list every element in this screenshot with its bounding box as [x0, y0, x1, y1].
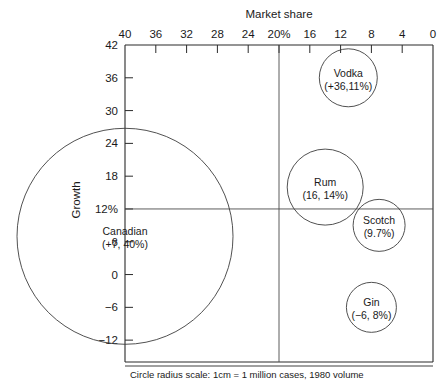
y-tick-label: −6: [105, 301, 118, 313]
y-tick-label: 42: [105, 39, 118, 51]
y-tick-label: −12: [98, 334, 118, 346]
y-tick-label: 30: [105, 105, 118, 117]
bubble-value-vodka: (+36,11%): [324, 80, 372, 92]
bubble-label-rum: Rum: [314, 176, 336, 188]
x-tick-label: 4: [399, 28, 406, 40]
bubble-chart: Market share 403632282420%1612840 423630…: [0, 0, 448, 386]
y-tick-label: 24: [105, 137, 118, 149]
y-tick-label: 0: [112, 269, 118, 281]
x-axis-title: Market share: [245, 8, 312, 20]
x-tick-label: 36: [149, 28, 162, 40]
y-tick-label: 12%: [95, 203, 118, 215]
scale-caption: Circle radius scale: 1cm = 1 million cas…: [130, 369, 364, 380]
bubble-value-rum: (16, 14%): [302, 189, 348, 201]
x-axis-tick-labels: 403632282420%1612840: [119, 28, 437, 40]
chart-canvas: Market share 403632282420%1612840 423630…: [0, 0, 448, 386]
x-tick-label: 0: [430, 28, 436, 40]
x-tick-label: 24: [242, 28, 255, 40]
bubble-gin[interactable]: Gin(−6, 8%): [346, 282, 396, 332]
bubble-vodka[interactable]: Vodka(+36,11%): [319, 49, 377, 107]
x-tick-label: 20%: [267, 28, 290, 40]
x-tick-label: 40: [119, 28, 132, 40]
bubble-label-gin: Gin: [363, 296, 380, 308]
bubble-value-gin: (−6, 8%): [351, 309, 391, 321]
y-axis-title: Growth: [70, 181, 82, 218]
y-axis-tick-labels: 423630241812%60−6−12: [95, 39, 119, 346]
bubble-label-canadian: Canadian: [103, 225, 148, 237]
bubble-scotch[interactable]: Scotch(9.7%): [353, 199, 405, 251]
y-tick-label: 18: [105, 170, 118, 182]
bubble-rum[interactable]: Rum(16, 14%): [287, 149, 363, 225]
x-tick-label: 28: [211, 28, 224, 40]
bubble-value-scotch: (9.7%): [364, 227, 395, 239]
x-tick-label: 12: [334, 28, 347, 40]
bubble-value-canadian: (+7, 40%): [102, 238, 148, 250]
x-tick-label: 8: [368, 28, 374, 40]
x-tick-label: 16: [303, 28, 316, 40]
y-tick-label: 36: [105, 72, 118, 84]
bubble-label-vodka: Vodka: [334, 67, 363, 79]
bubble-label-scotch: Scotch: [363, 214, 395, 226]
x-tick-label: 32: [180, 28, 193, 40]
